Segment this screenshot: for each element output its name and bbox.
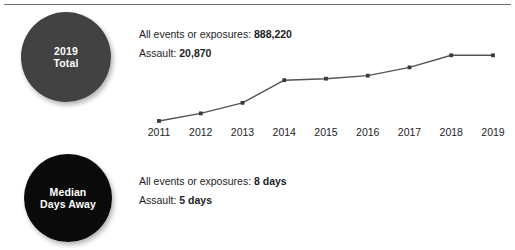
stat-value-all-events-median: 8 days [254, 175, 287, 187]
data-point-2017 [408, 65, 412, 69]
x-tick-2016: 2016 [356, 126, 379, 138]
x-tick-2014: 2014 [273, 126, 296, 138]
badge-median-line1: Median [50, 186, 87, 199]
x-tick-2011: 2011 [148, 126, 171, 138]
data-point-2016 [366, 74, 370, 78]
stat-label-assault-median: Assault: [139, 194, 179, 206]
stats-median-group: All events or exposures: 8 days Assault:… [139, 172, 287, 210]
data-point-2012 [199, 112, 203, 116]
data-point-2015 [324, 77, 328, 81]
stat-row-assault-median: Assault: 5 days [139, 191, 287, 210]
badge-total-line1: 2019 [54, 45, 78, 58]
infographic-panel: 2019 Total Median Days Away All events o… [0, 0, 515, 250]
badge-2019-total: 2019 Total [21, 12, 111, 102]
badge-total-line2: Total [54, 57, 79, 70]
stat-row-all-events-median: All events or exposures: 8 days [139, 172, 287, 191]
data-point-2019 [491, 53, 495, 57]
x-tick-2018: 2018 [440, 126, 463, 138]
series-line-assault [159, 55, 493, 121]
x-axis-tick-labels: 201120122013201420152016201720182019 [139, 126, 507, 142]
data-point-2011 [157, 119, 161, 123]
stat-label-all-events-median: All events or exposures: [139, 175, 254, 187]
data-point-2014 [282, 78, 286, 82]
badge-median-days-away: Median Days Away [24, 154, 112, 242]
x-tick-2015: 2015 [314, 126, 337, 138]
x-tick-2017: 2017 [398, 126, 421, 138]
x-tick-2013: 2013 [231, 126, 254, 138]
series-markers [157, 53, 495, 122]
stat-value-assault-median: 5 days [179, 194, 212, 206]
data-point-2013 [241, 101, 245, 105]
stat-value-all-events-total: 888,220 [254, 28, 292, 40]
x-tick-2012: 2012 [189, 126, 212, 138]
data-point-2018 [449, 53, 453, 57]
x-tick-2019: 2019 [481, 126, 504, 138]
top-divider [4, 4, 511, 5]
stat-label-all-events-total: All events or exposures: [139, 28, 254, 40]
badge-median-line2: Days Away [40, 198, 96, 211]
stat-row-all-events-total: All events or exposures: 888,220 [139, 25, 292, 44]
